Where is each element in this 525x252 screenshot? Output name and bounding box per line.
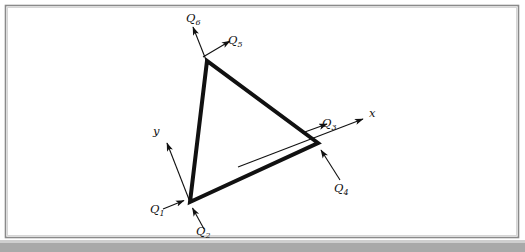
x-axis-label: x <box>369 106 376 120</box>
page-background <box>0 0 525 252</box>
dof-q4-label-subscript: 4 <box>342 188 348 197</box>
page-edge-band <box>0 243 525 252</box>
dof-q6-label-subscript: 6 <box>195 18 200 27</box>
figure-root: x y Q1 Q2 Q3 Q4 Q5 Q6 <box>0 0 525 252</box>
dof-q5-label-subscript: 5 <box>237 40 242 49</box>
page-edge-band-shadow <box>0 240 525 243</box>
dof-q3-label-subscript: 3 <box>331 123 336 132</box>
triangular-element-diagram: x y Q1 Q2 Q3 Q4 Q5 Q6 <box>0 0 525 252</box>
y-axis-label: y <box>152 124 160 138</box>
dof-q1-label-subscript: 1 <box>159 209 164 218</box>
dof-q2-label-subscript: 2 <box>204 231 210 240</box>
